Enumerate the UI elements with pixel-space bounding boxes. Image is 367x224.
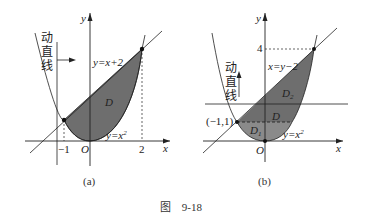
origin-label: O <box>81 143 89 155</box>
point-label: (−1,1) <box>206 115 234 128</box>
moving-line-char-3: 线 <box>41 59 53 73</box>
intersection-point <box>235 120 239 124</box>
intersection-point <box>62 118 66 122</box>
caption-a: (a) <box>83 175 95 187</box>
region-label-d: D <box>271 110 280 122</box>
axis-label-y: y <box>80 12 86 24</box>
y-axis-arrow <box>263 13 268 21</box>
intersection-point <box>140 47 144 51</box>
tick-label-neg1: −1 <box>58 143 70 155</box>
arrow-right-icon <box>69 58 76 63</box>
panel-b: y x O 4 (−1,1) x=y−2 D2 D D1 y=x2 动 直 线 <box>203 12 348 162</box>
tick-label-2: 2 <box>139 143 145 155</box>
arrow-up-icon <box>237 71 242 78</box>
curve-equation-label: y=x2 <box>282 128 304 140</box>
origin-label: O <box>256 144 264 156</box>
moving-line-char-3: 线 <box>225 89 237 103</box>
axis-label-y: y <box>255 12 261 24</box>
tick-label-4: 4 <box>257 42 263 54</box>
figure-caption-prefix: 图 <box>160 201 171 214</box>
figure-caption-number: 9-18 <box>182 201 202 213</box>
intersection-point <box>312 47 316 51</box>
figure-caption: 图 9-18 <box>160 198 202 214</box>
line-equation-label: y=x+2 <box>92 56 124 68</box>
figure-canvas: y x O −1 2 y=x+2 D y=x2 动 直 线 <box>0 0 367 224</box>
axis-label-x: x <box>162 142 168 154</box>
y-axis-arrow <box>88 13 93 21</box>
moving-line-char-2: 直 <box>225 75 237 89</box>
curve-equation-label: y=x2 <box>105 129 127 141</box>
panel-a: y x O −1 2 y=x+2 D y=x2 动 直 线 <box>25 12 170 166</box>
moving-line-char-2: 直 <box>41 45 53 59</box>
origin-point <box>263 139 267 143</box>
moving-line-char-1: 动 <box>41 31 53 45</box>
caption-b: (b) <box>258 175 271 187</box>
axis-label-x: x <box>335 142 341 154</box>
region-label-d: D <box>104 96 113 108</box>
moving-line-char-1: 动 <box>225 61 237 75</box>
line-equation-label: x=y−2 <box>267 60 299 72</box>
